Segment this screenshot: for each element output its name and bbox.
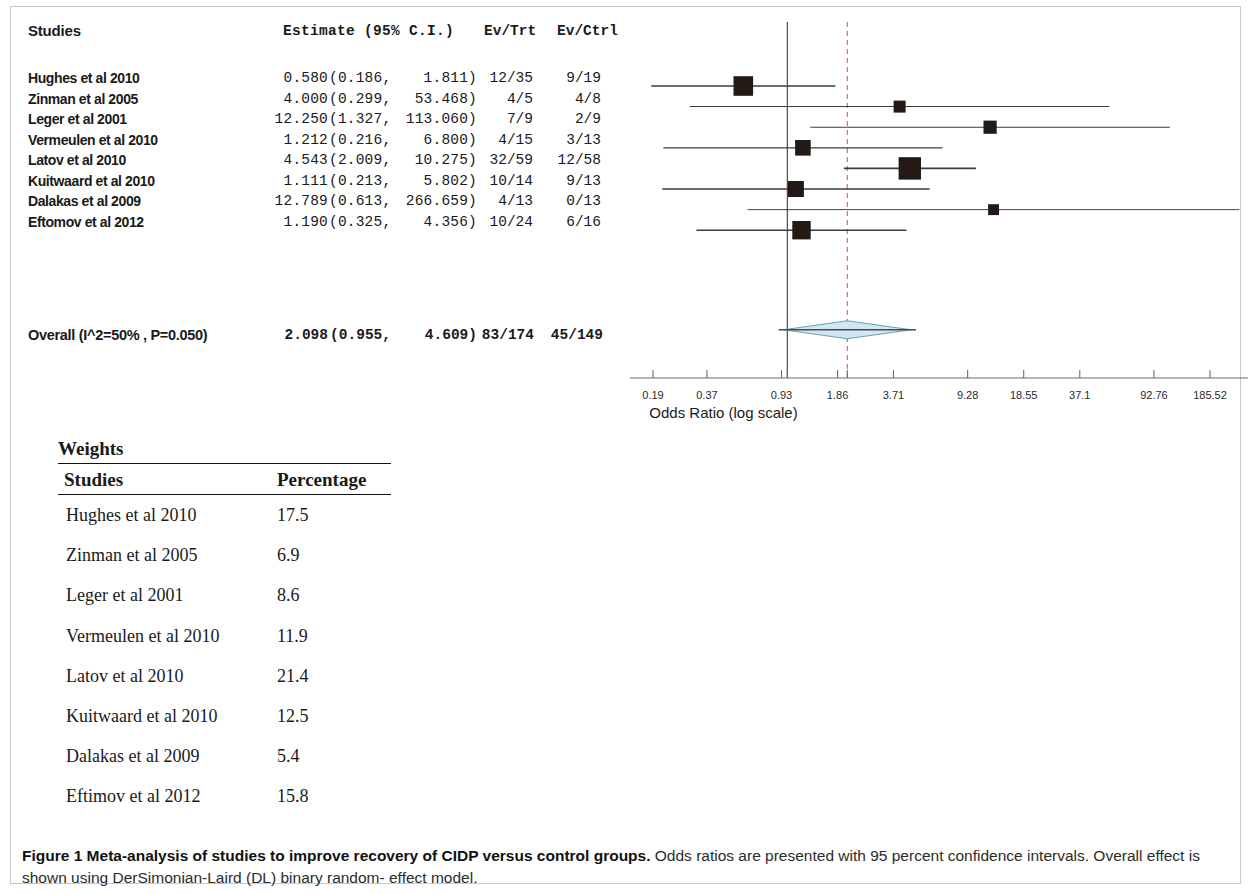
ev-ctrl-value: 9/19 xyxy=(545,70,601,86)
weights-study-label: Zinman et al 2005 xyxy=(66,545,197,566)
weights-header-row: Studies Percentage xyxy=(58,464,393,494)
estimate-value: 12.250 xyxy=(238,111,328,127)
study-label: Hughes et al 2010 xyxy=(28,70,139,86)
ci-lower-value: (2.009, xyxy=(329,152,391,168)
estimate-value: 1.111 xyxy=(238,173,328,189)
forest-table-row: Vermeulen et al 20101.212(0.216,6.800)4/… xyxy=(24,132,644,153)
study-label: Zinman et al 2005 xyxy=(28,91,138,107)
weights-study-label: Leger et al 2001 xyxy=(66,585,183,606)
ci-lower-value: (0.213, xyxy=(329,173,391,189)
weights-table-row: Vermeulen et al 201011.9 xyxy=(58,616,393,656)
overall-ci-upper: 4.609) xyxy=(393,327,477,343)
column-header-ev-ctrl: Ev/Ctrl xyxy=(557,23,618,39)
ev-trt-value: 32/59 xyxy=(479,152,533,168)
weights-percentage-value: 15.8 xyxy=(277,786,309,807)
weights-percentage-value: 5.4 xyxy=(277,746,300,767)
weights-table-row: Kuitwaard et al 201012.5 xyxy=(58,696,393,736)
forest-table-body: Hughes et al 20100.580(0.186,1.811)12/35… xyxy=(24,70,644,234)
weights-study-label: Latov et al 2010 xyxy=(66,666,183,687)
ev-trt-value: 7/9 xyxy=(479,111,533,127)
weights-percentage-value: 11.9 xyxy=(277,626,308,647)
weights-percentage-value: 17.5 xyxy=(277,505,309,526)
study-label: Vermeulen et al 2010 xyxy=(28,132,158,148)
overall-ci-lower: (0.955, xyxy=(329,327,391,343)
forest-table-row: Kuitwaard et al 20101.111(0.213,5.802)10… xyxy=(24,173,644,194)
estimate-value: 12.789 xyxy=(238,193,328,209)
ev-ctrl-value: 12/58 xyxy=(545,152,601,168)
ci-upper-value: 4.356) xyxy=(393,214,477,230)
ev-ctrl-value: 2/9 xyxy=(545,111,601,127)
forest-table-row: Latov et al 20104.543(2.009,10.275)32/59… xyxy=(24,152,644,173)
ci-upper-value: 10.275) xyxy=(393,152,477,168)
ci-upper-value: 53.468) xyxy=(393,91,477,107)
estimate-value: 1.190 xyxy=(238,214,328,230)
forest-summary-table: Studies Estimate (95% C.I.) Ev/Trt Ev/Ct… xyxy=(24,22,644,48)
ev-trt-value: 10/24 xyxy=(479,214,533,230)
ev-trt-value: 4/15 xyxy=(479,132,533,148)
forest-table-header: Studies Estimate (95% C.I.) Ev/Trt Ev/Ct… xyxy=(24,22,644,48)
weights-title: Weights xyxy=(58,438,393,463)
forest-table-row: Eftomov et al 20121.190(0.325,4.356)10/2… xyxy=(24,214,644,235)
ci-upper-value: 1.811) xyxy=(393,70,477,86)
forest-overall-row: Overall (I^2=50% , P=0.050) 2.098 (0.955… xyxy=(24,327,644,349)
ev-ctrl-value: 0/13 xyxy=(545,193,601,209)
weights-percentage-value: 12.5 xyxy=(277,706,309,727)
weights-study-label: Dalakas et al 2009 xyxy=(66,746,199,767)
study-label: Dalakas et al 2009 xyxy=(28,193,141,209)
ci-lower-value: (0.186, xyxy=(329,70,391,86)
weights-column-header-studies: Studies xyxy=(64,469,123,491)
ev-ctrl-value: 6/16 xyxy=(545,214,601,230)
ci-upper-value: 113.060) xyxy=(393,111,477,127)
weights-table-body: Hughes et al 201017.5Zinman et al 20056.… xyxy=(58,495,393,817)
study-label: Eftomov et al 2012 xyxy=(28,214,144,230)
ev-ctrl-value: 9/13 xyxy=(545,173,601,189)
study-label: Latov et al 2010 xyxy=(28,152,126,168)
weights-study-label: Hughes et al 2010 xyxy=(66,505,196,526)
estimate-value: 1.212 xyxy=(238,132,328,148)
ci-lower-value: (0.613, xyxy=(329,193,391,209)
weights-study-label: Kuitwaard et al 2010 xyxy=(66,706,217,727)
weights-table: Weights Studies Percentage Hughes et al … xyxy=(58,438,393,817)
column-header-estimate: Estimate (95% C.I.) xyxy=(283,23,454,39)
weights-table-row: Leger et al 20018.6 xyxy=(58,575,393,615)
ci-upper-value: 6.800) xyxy=(393,132,477,148)
ev-trt-value: 12/35 xyxy=(479,70,533,86)
weights-column-header-percentage: Percentage xyxy=(277,469,366,491)
ev-trt-value: 10/14 xyxy=(479,173,533,189)
overall-label: Overall (I^2=50% , P=0.050) xyxy=(28,327,207,343)
ci-lower-value: (0.216, xyxy=(329,132,391,148)
forest-table-row: Hughes et al 20100.580(0.186,1.811)12/35… xyxy=(24,70,644,91)
study-label: Leger et al 2001 xyxy=(28,111,127,127)
forest-table-row: Leger et al 200112.250(1.327,113.060)7/9… xyxy=(24,111,644,132)
ci-lower-value: (0.299, xyxy=(329,91,391,107)
weights-table-row: Dalakas et al 20095.4 xyxy=(58,736,393,776)
weights-study-label: Vermeulen et al 2010 xyxy=(66,626,219,647)
weights-percentage-value: 6.9 xyxy=(277,545,300,566)
ev-trt-value: 4/5 xyxy=(479,91,533,107)
column-header-ev-trt: Ev/Trt xyxy=(484,23,536,39)
weights-percentage-value: 8.6 xyxy=(277,585,300,606)
estimate-value: 4.543 xyxy=(238,152,328,168)
weights-study-label: Eftimov et al 2012 xyxy=(66,786,200,807)
ev-ctrl-value: 4/8 xyxy=(545,91,601,107)
ci-upper-value: 5.802) xyxy=(393,173,477,189)
overall-ev-trt: 83/174 xyxy=(474,327,534,343)
ci-upper-value: 266.659) xyxy=(393,193,477,209)
column-header-studies: Studies xyxy=(28,22,81,39)
weights-table-row: Latov et al 201021.4 xyxy=(58,656,393,696)
estimate-value: 4.000 xyxy=(238,91,328,107)
weights-table-row: Zinman et al 20056.9 xyxy=(58,535,393,575)
weights-table-row: Hughes et al 201017.5 xyxy=(58,495,393,535)
ci-lower-value: (0.325, xyxy=(329,214,391,230)
estimate-value: 0.580 xyxy=(238,70,328,86)
overall-estimate: 2.098 xyxy=(238,327,328,343)
overall-ev-ctrl: 45/149 xyxy=(539,327,603,343)
ci-lower-value: (1.327, xyxy=(329,111,391,127)
ev-ctrl-value: 3/13 xyxy=(545,132,601,148)
ev-trt-value: 4/13 xyxy=(479,193,533,209)
forest-table-row: Dalakas et al 200912.789(0.613,266.659)4… xyxy=(24,193,644,214)
weights-percentage-value: 21.4 xyxy=(277,666,309,687)
study-label: Kuitwaard et al 2010 xyxy=(28,173,155,189)
forest-table-row: Zinman et al 20054.000(0.299,53.468)4/54… xyxy=(24,91,644,112)
figure-caption-bold: Figure 1 Meta-analysis of studies to imp… xyxy=(22,847,651,864)
